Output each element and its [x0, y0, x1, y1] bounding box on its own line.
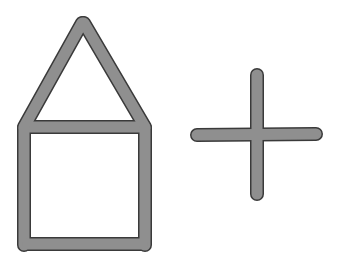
roof-right-stick [84, 23, 145, 127]
house-figure-outline [24, 23, 145, 245]
roof-left-stick [24, 23, 82, 127]
plus-sign-figure [197, 75, 316, 194]
matchstick-diagram [0, 0, 339, 272]
